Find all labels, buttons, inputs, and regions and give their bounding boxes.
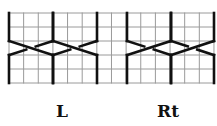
label-right: Rt bbox=[157, 103, 179, 120]
cable-chart bbox=[0, 0, 217, 126]
cable-cross-under bbox=[171, 41, 188, 46]
label-left: L bbox=[56, 103, 68, 120]
chart-grid bbox=[9, 13, 214, 83]
cable-cross-under bbox=[127, 41, 144, 46]
cable-cross-under bbox=[154, 50, 171, 55]
